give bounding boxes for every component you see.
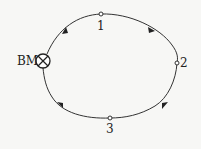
leveling-loop-diagram: BM 1 2 3	[0, 0, 201, 149]
benchmark-label: BM	[17, 54, 38, 68]
point-3-label: 3	[106, 122, 114, 136]
point-3-marker	[108, 116, 112, 120]
point-1-label: 1	[97, 19, 105, 33]
arrow-icon-3-to-bm	[57, 102, 63, 108]
leveling-route-line	[43, 14, 177, 118]
arrow-icon-2-to-3	[162, 102, 168, 109]
point-2-marker	[175, 61, 179, 65]
point-1-marker	[99, 12, 103, 16]
arrow-icon-1-to-2	[148, 27, 155, 33]
point-2-label: 2	[180, 56, 188, 70]
